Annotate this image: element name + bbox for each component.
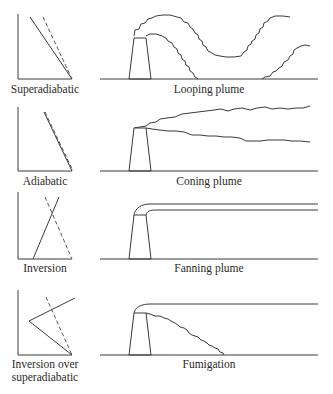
environmental-lapse-line — [44, 112, 72, 171]
plume-outline — [262, 45, 310, 79]
row-looping: SuperadiabaticLooping plume — [11, 14, 318, 96]
plume-scene: Coning plume — [100, 106, 318, 188]
plume-type-label: Coning plume — [176, 175, 242, 188]
lapse-rate-label: Adiabatic — [23, 175, 68, 187]
lapse-rate-label: Inversion over — [12, 358, 79, 370]
plume-type-label: Looping plume — [174, 83, 245, 96]
plume-outline — [134, 15, 290, 57]
row-coning: AdiabaticConing plume — [18, 106, 318, 188]
dry-adiabatic-lapse-line — [43, 17, 72, 79]
chart-axes — [18, 107, 72, 171]
smokestack — [129, 38, 151, 79]
environmental-lapse-line — [30, 17, 72, 79]
chart-axes — [18, 14, 72, 79]
plume-scene: Fumigation — [100, 304, 318, 371]
chart-axes — [18, 192, 72, 259]
smokestack — [129, 128, 151, 171]
smokestack — [129, 215, 151, 259]
dry-adiabatic-lapse-line — [45, 197, 72, 259]
plume-outline — [146, 34, 198, 79]
plume-outline — [134, 304, 318, 313]
plume-type-label: Fanning plume — [174, 262, 243, 275]
plume-scene: Fanning plume — [100, 204, 318, 275]
lapse-rate-label: Superadiabatic — [11, 83, 79, 96]
lapse-rate-chart: Adiabatic — [18, 107, 73, 187]
atmospheric-stability-plume-diagram: SuperadiabaticLooping plumeAdiabaticConi… — [0, 0, 333, 394]
lapse-rate-label: superadiabatic — [12, 371, 78, 384]
lapse-rate-chart: Inversion — [18, 192, 72, 274]
environmental-lapse-line — [33, 197, 59, 259]
plume-type-label: Fumigation — [182, 358, 235, 371]
row-fanning: InversionFanning plume — [18, 192, 318, 275]
dry-adiabatic-lapse-line — [45, 112, 73, 171]
lapse-rate-chart: Inversion oversuperadiabatic — [12, 290, 79, 384]
plume-outline — [146, 313, 224, 355]
smokestack — [129, 313, 151, 355]
plume-outline — [134, 106, 310, 128]
lapse-rate-label: Inversion — [23, 262, 67, 274]
row-fumigation: Inversion oversuperadiabaticFumigation — [12, 290, 318, 384]
plume-scene: Looping plume — [100, 15, 318, 96]
lapse-rate-chart: Superadiabatic — [11, 14, 79, 96]
chart-axes — [18, 290, 72, 355]
plume-outline — [146, 128, 310, 142]
plume-outline — [146, 210, 318, 215]
